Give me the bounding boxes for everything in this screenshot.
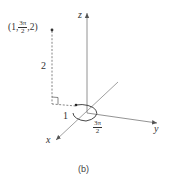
x-axis-label: x — [46, 135, 50, 145]
height-label: 2 — [41, 61, 46, 71]
right-angle-marker — [52, 97, 58, 105]
point-theta-fraction: 3π2 — [18, 20, 27, 35]
angle-fraction: 3π2 — [93, 120, 102, 135]
z-axis-label: z — [78, 10, 82, 20]
point-label-open: (1, — [8, 22, 18, 32]
point-marker — [51, 29, 54, 32]
angle-label: 3π2 — [93, 120, 102, 135]
point-label: (1,3π2,2) — [8, 20, 38, 35]
figure-caption: (b) — [78, 165, 89, 174]
point-theta-den: 2 — [21, 28, 25, 35]
point-label-close: ,2) — [27, 22, 37, 32]
angle-den: 2 — [96, 128, 100, 135]
y-axis-label: y — [154, 124, 158, 134]
radius-label: 1 — [63, 111, 68, 121]
radius-dashed-line — [52, 104, 76, 106]
